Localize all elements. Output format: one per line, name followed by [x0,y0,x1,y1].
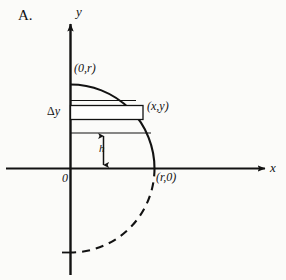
right-point-label: (r,0) [156,171,176,183]
lower-quarter-arc [71,169,155,253]
upper-quarter-arc [71,85,155,169]
panel-label: A. [18,8,33,23]
top-point-label: (0,r) [74,62,96,74]
delta-symbol: Δ [47,104,55,118]
figure-panel-a: A. y x 0 (0,r) (r,0) (x,y) Δy h [0,0,286,280]
x-axis-label: x [270,161,276,174]
depth-label: h [99,143,105,154]
riemann-strip [71,106,144,120]
strip-thickness-label: Δy [47,105,60,117]
delta-variable: y [55,104,60,118]
origin-label: 0 [62,172,68,184]
strip-point-label: (x,y) [147,100,169,112]
geometry-diagram [0,0,286,280]
y-axis-label: y [76,5,82,18]
